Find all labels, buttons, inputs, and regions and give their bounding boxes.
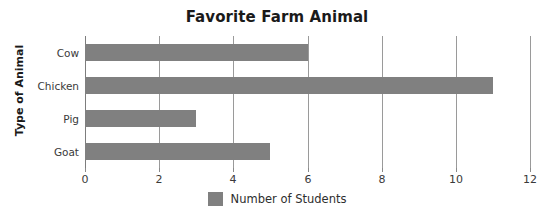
y-tick-label-cow: Cow (0, 47, 79, 59)
x-tick-mark-2 (159, 168, 160, 172)
x-axis-ticks: 024681012 (85, 168, 530, 192)
bar-chicken (85, 77, 493, 94)
bar-pig (85, 110, 196, 127)
y-tick-label-goat: Goat (0, 146, 79, 158)
x-tick-label-0: 0 (70, 173, 100, 186)
gridline-x-6 (308, 36, 309, 168)
y-tick-label-pig: Pig (0, 113, 79, 125)
chart-title: Favorite Farm Animal (0, 8, 554, 26)
x-tick-label-10: 10 (441, 173, 471, 186)
gridline-x-12 (530, 36, 531, 168)
gridline-x-8 (382, 36, 383, 168)
x-tick-mark-10 (456, 168, 457, 172)
chart-legend: Number of Students (0, 192, 554, 206)
bar-chart: Favorite Farm Animal Type of Animal CowC… (0, 0, 554, 219)
bar-goat (85, 143, 270, 160)
legend-swatch-number-of-students (208, 192, 223, 206)
x-tick-label-8: 8 (367, 173, 397, 186)
y-axis-tick-labels: CowChickenPigGoat (0, 36, 79, 168)
gridline-x-10 (456, 36, 457, 168)
x-tick-label-4: 4 (218, 173, 248, 186)
bar-cow (85, 44, 308, 61)
x-tick-label-2: 2 (144, 173, 174, 186)
y-tick-label-chicken: Chicken (0, 80, 79, 92)
x-tick-mark-12 (530, 168, 531, 172)
x-tick-mark-8 (382, 168, 383, 172)
x-tick-mark-4 (233, 168, 234, 172)
x-tick-label-12: 12 (515, 173, 545, 186)
x-tick-mark-6 (308, 168, 309, 172)
x-tick-mark-0 (85, 168, 86, 172)
legend-label-number-of-students: Number of Students (231, 192, 347, 206)
x-tick-label-6: 6 (293, 173, 323, 186)
plot-area (85, 36, 530, 168)
